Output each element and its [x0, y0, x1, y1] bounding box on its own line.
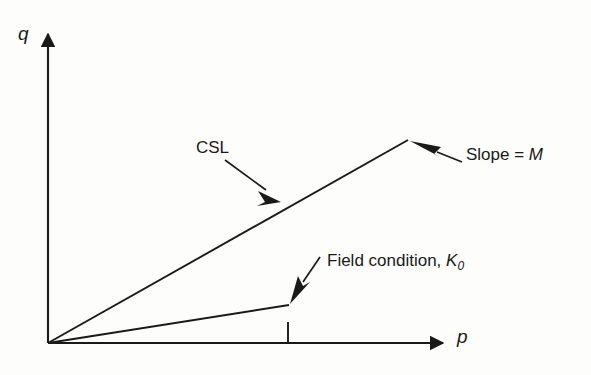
- slope-annotation-label: Slope = M: [466, 146, 543, 163]
- slope-label-text: Slope =: [466, 145, 529, 164]
- y-axis-label-q: q: [18, 24, 29, 43]
- slope-arrowhead-icon: [410, 141, 442, 158]
- csl-line: [48, 140, 408, 343]
- field-label-subscript: 0: [457, 259, 464, 273]
- x-axis-label-p: p: [457, 327, 468, 346]
- slope-leader-line: [437, 152, 462, 162]
- csl-annotation-label: CSL: [196, 139, 229, 156]
- figure-root: q p CSL Slope = M Field condition, K0: [0, 0, 591, 375]
- field-label-text: Field condition,: [327, 251, 446, 270]
- csl-arrowhead-icon: [257, 191, 281, 206]
- field-leader-line: [303, 257, 320, 282]
- csl-leader-line: [225, 160, 266, 190]
- field-arrowhead-icon: [290, 276, 310, 304]
- slope-label-symbol: M: [529, 145, 543, 164]
- field-condition-k0-line: [48, 305, 289, 343]
- pq-stress-path-diagram: [0, 0, 591, 375]
- field-label-symbol: K: [446, 251, 457, 270]
- field-condition-annotation-label: Field condition, K0: [327, 252, 464, 269]
